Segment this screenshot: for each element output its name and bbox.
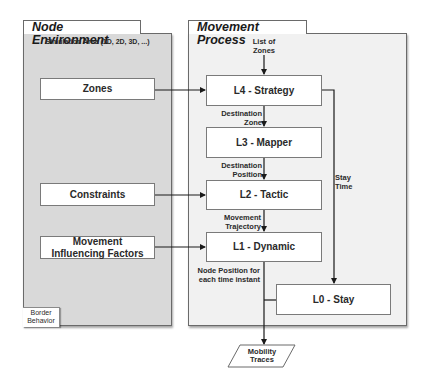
l4-to-l0-arrow [322, 90, 334, 283]
mobility-traces-label: Mobility Traces [244, 348, 280, 364]
connector-lines [0, 0, 423, 389]
